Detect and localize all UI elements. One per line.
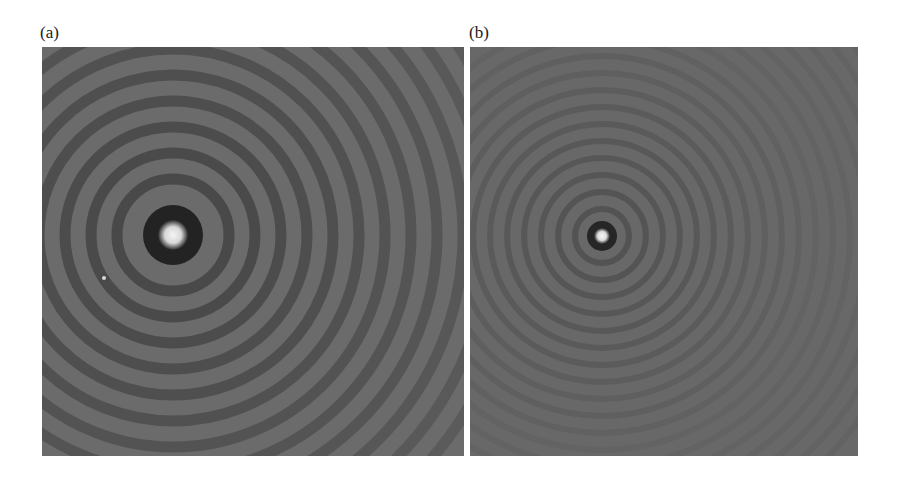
panel-a-label: (a) [40, 24, 59, 41]
diffraction-image-b [470, 47, 858, 456]
panel-b-label: (b) [469, 24, 489, 41]
diffraction-image-a [42, 47, 464, 456]
ring-pattern-a [42, 47, 464, 456]
ring-pattern-b [470, 47, 858, 456]
